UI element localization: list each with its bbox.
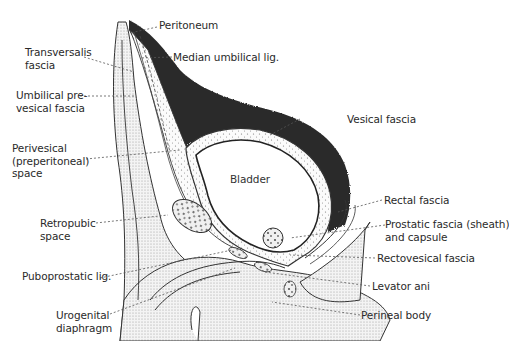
- label-bladder: Bladder: [230, 173, 270, 186]
- label-line: Umbilical pre-: [16, 89, 87, 102]
- label-umbilical-prevesical-fascia: Umbilical pre- vesical fascia: [16, 89, 87, 114]
- label-line: Perivesical: [12, 142, 89, 155]
- label-line: space: [40, 230, 96, 243]
- label-perivesical-space: Perivesical (preperitoneal) space: [12, 142, 89, 180]
- label-line: and capsule: [385, 231, 509, 244]
- label-rectovesical-fascia: Rectovesical fascia: [377, 252, 475, 265]
- label-line: (preperitoneal): [12, 155, 89, 168]
- label-perineal-body: Perineal body: [361, 309, 431, 322]
- label-peritoneum: Peritoneum: [159, 19, 218, 32]
- label-puboprostatic-lig: Puboprostatic lig.: [22, 270, 111, 283]
- levator-ani-muscle: [284, 281, 296, 297]
- label-prostatic-fascia: Prostatic fascia (sheath) and capsule: [385, 218, 509, 243]
- label-median-umbilical-lig: Median umbilical lig.: [173, 51, 279, 64]
- label-line: space: [12, 167, 89, 180]
- label-retropubic-space: Retropubic space: [40, 217, 96, 242]
- label-line: Prostatic fascia (sheath): [385, 218, 509, 231]
- label-line: vesical fascia: [16, 102, 87, 115]
- label-line: Transversalis: [25, 46, 92, 59]
- label-line: diaphragm: [56, 322, 112, 335]
- label-vesical-fascia: Vesical fascia: [347, 113, 416, 126]
- prostate: [263, 228, 283, 248]
- label-line: Retropubic: [40, 217, 96, 230]
- label-urogenital-diaphragm: Urogenital diaphragm: [56, 309, 112, 334]
- label-line: Urogenital: [56, 309, 112, 322]
- label-line: fascia: [25, 59, 92, 72]
- label-rectal-fascia: Rectal fascia: [384, 194, 449, 207]
- label-levator-ani: Levator ani: [372, 280, 430, 293]
- label-transversalis-fascia: Transversalis fascia: [25, 46, 92, 71]
